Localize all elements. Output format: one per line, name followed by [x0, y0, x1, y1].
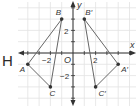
x-axis-label: x	[129, 40, 135, 50]
point-label-b: B	[56, 8, 62, 17]
point-label-c-prime: C′	[99, 89, 107, 98]
point-label-a: A	[19, 65, 25, 74]
point-c-prime	[94, 85, 98, 89]
point-label-b-prime: B′	[85, 8, 92, 17]
y-tick-label-neg2: −2	[60, 72, 70, 81]
point-label-a-prime: A′	[120, 65, 128, 74]
point-a	[26, 63, 30, 67]
x-tick-label-neg2: −2	[42, 56, 52, 65]
origin-label: O	[64, 55, 71, 65]
y-axis-arrow-down	[71, 100, 76, 106]
point-label-c: C	[49, 89, 55, 98]
y-axis-label: y	[76, 0, 82, 10]
y-axis-arrow-up	[71, 1, 76, 7]
x-tick-label-pos2: 2	[93, 56, 98, 65]
point-b-prime	[83, 17, 87, 21]
coordinate-plane: x y O −2 2 2 −2 ABC A′B′C′	[0, 0, 139, 110]
y-tick-label-pos2: 2	[64, 27, 69, 36]
x-axis-arrow-right	[130, 51, 136, 56]
x-axis-arrow-left	[18, 51, 24, 56]
point-b	[60, 17, 64, 21]
point-a-prime	[116, 63, 120, 67]
